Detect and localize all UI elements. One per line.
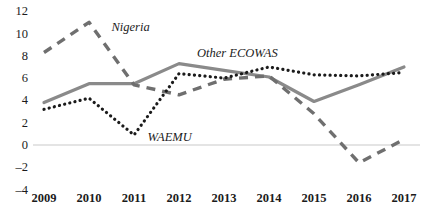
- series-line-other-ecowas: [44, 64, 404, 103]
- y-axis-tick-0: 12: [0, 5, 28, 17]
- x-axis-tick-3: 2012: [156, 192, 202, 204]
- y-axis-tick-1: 10: [0, 28, 28, 40]
- series-label-other-ecowas: Other ECOWAS: [197, 47, 278, 59]
- x-axis-tick-1: 2010: [66, 192, 112, 204]
- series-line-nigeria: [44, 22, 404, 163]
- series-label-waemu: WAEMU: [148, 131, 192, 143]
- x-axis-tick-7: 2016: [336, 192, 382, 204]
- x-axis-tick-6: 2015: [291, 192, 337, 204]
- y-axis-tick-5: 2: [0, 117, 28, 129]
- x-axis-tick-5: 2014: [246, 192, 292, 204]
- x-axis-tick-4: 2013: [201, 192, 247, 204]
- y-axis-tick-4: 4: [0, 94, 28, 106]
- y-axis-tick-6: 0: [0, 139, 28, 151]
- chart-container: 121086420–2–4 20092010201120122013201420…: [0, 0, 426, 216]
- y-axis-tick-7: –2: [0, 161, 28, 173]
- x-axis-tick-0: 2009: [21, 192, 67, 204]
- chart-plot-area: [0, 0, 426, 216]
- series-line-waemu: [44, 67, 404, 135]
- x-axis-tick-8: 2017: [381, 192, 426, 204]
- y-axis-tick-2: 8: [0, 50, 28, 62]
- x-axis-tick-2: 2011: [111, 192, 157, 204]
- y-axis-tick-3: 6: [0, 72, 28, 84]
- series-label-nigeria: Nigeria: [112, 21, 150, 33]
